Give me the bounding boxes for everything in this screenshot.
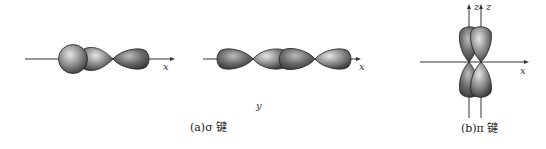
- x-axis-label-a2: x: [359, 62, 365, 72]
- x-axis-label-a1: x: [163, 62, 169, 72]
- pi-bond-diagram: [420, 4, 529, 118]
- z-axis-label-1: z: [474, 2, 479, 12]
- x-axis-label-b: x: [520, 66, 526, 76]
- y-label: y: [256, 101, 262, 111]
- sigma-sp-diagram: [25, 45, 175, 74]
- sigma-pp-diagram: [203, 48, 361, 69]
- caption-pi-bond: (b)π 键: [461, 123, 498, 134]
- caption-sigma-bond: (a)σ 键: [190, 122, 227, 133]
- z-axis-label-2: z: [486, 2, 491, 12]
